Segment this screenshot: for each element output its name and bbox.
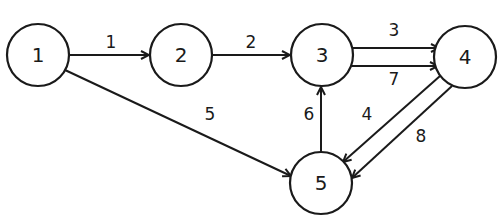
node-label-4: 4 — [459, 45, 472, 69]
edge-label-4-5-inner: 4 — [362, 104, 373, 124]
edge-label-4-5-outer: 8 — [416, 126, 427, 146]
node-label-5: 5 — [315, 171, 328, 195]
node-2: 2 — [150, 24, 212, 86]
node-label-1: 1 — [32, 43, 45, 67]
node-1: 1 — [7, 24, 69, 86]
node-5: 5 — [290, 152, 352, 214]
edge-label-3-4-top: 3 — [389, 20, 400, 40]
edge-4-5-weight-8 — [352, 86, 452, 178]
node-label-3: 3 — [316, 43, 329, 67]
edge-label-5-3: 6 — [304, 104, 315, 124]
node-label-2: 2 — [175, 43, 188, 67]
graph-canvas: 1 2 3 7 5 6 4 8 1 2 3 4 5 — [0, 0, 502, 218]
edge-label-3-4-bottom: 7 — [389, 69, 400, 89]
node-4: 4 — [434, 26, 496, 88]
edge-label-1-2: 1 — [106, 32, 117, 52]
edge-label-1-5: 5 — [205, 104, 216, 124]
edge-label-2-3: 2 — [246, 32, 257, 52]
node-3: 3 — [291, 24, 353, 86]
